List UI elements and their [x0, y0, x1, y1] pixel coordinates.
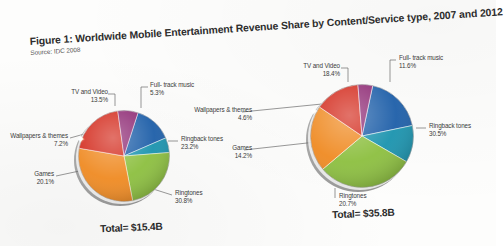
- label-games-2012: Games 14.2%: [186, 144, 252, 161]
- label-full-track-music-2012: Full- track music 11.6%: [399, 54, 443, 71]
- label-wallpapers-and-themes-2012: Wallpapers & themes 4.6%: [140, 106, 252, 123]
- pie-body-2012: ✦: [310, 84, 414, 188]
- pie-gloss-overlay: [78, 110, 169, 201]
- label-ringtones-2007: Ringtones 30.8%: [175, 189, 202, 206]
- label-wallpapers-and-themes-2007: Wallpapers & themes 7.2%: [0, 132, 68, 149]
- pie-slices-2007: [78, 110, 170, 202]
- pie-body-2007: ✦: [78, 110, 170, 202]
- label-ringback-tones-2012: Ringback tones 30.5%: [429, 122, 471, 139]
- label-games-2007: Games 20.1%: [0, 170, 54, 187]
- label-tv-and-video-2007: TV and Video 13.5%: [8, 88, 108, 105]
- pie-gloss-overlay: [311, 85, 414, 188]
- label-full-track-music-2007: Full- track music 5.3%: [150, 81, 194, 98]
- pie-slices-2012: [310, 84, 414, 188]
- label-ringtones-2012: Ringtones 20.7%: [339, 192, 366, 209]
- label-tv-and-video-2012: TV and Video 18.4%: [238, 62, 340, 79]
